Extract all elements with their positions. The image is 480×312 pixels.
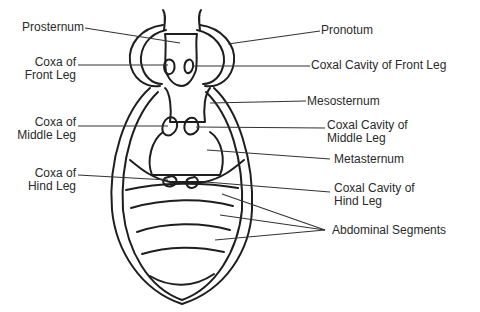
label-coxa-hind-leg: Coxa of Hind Leg bbox=[0, 167, 76, 193]
label-prosternum: Prosternum bbox=[0, 21, 84, 34]
label-abdominal-segments: Abdominal Segments bbox=[332, 224, 446, 237]
body-outline bbox=[111, 88, 252, 304]
label-line: Metasternum bbox=[334, 152, 404, 166]
leader-lines bbox=[78, 28, 330, 240]
label-line: Abdominal Segments bbox=[332, 223, 446, 237]
label-line: Hind Leg bbox=[0, 180, 76, 193]
label-line: Mesosternum bbox=[307, 94, 380, 108]
label-line: Prosternum bbox=[22, 20, 84, 34]
label-metasternum: Metasternum bbox=[334, 153, 404, 166]
label-line: Middle Leg bbox=[0, 129, 76, 142]
label-coxal-cavity-front-leg: Coxal Cavity of Front Leg bbox=[311, 59, 446, 72]
label-line: Front Leg bbox=[0, 69, 76, 82]
label-coxa-middle-leg: Coxa of Middle Leg bbox=[0, 116, 76, 142]
label-line: Coxal Cavity of Front Leg bbox=[311, 58, 446, 72]
insect-body-drawing bbox=[0, 0, 480, 312]
label-coxal-cavity-hind-leg: Coxal Cavity of Hind Leg bbox=[334, 182, 415, 208]
label-line: Hind Leg bbox=[334, 195, 415, 208]
label-coxa-front-leg: Coxa of Front Leg bbox=[0, 56, 76, 82]
label-mesosternum: Mesosternum bbox=[307, 95, 380, 108]
label-line: Pronotum bbox=[321, 23, 373, 37]
label-line: Middle Leg bbox=[327, 132, 408, 145]
label-coxal-cavity-middle-leg: Coxal Cavity of Middle Leg bbox=[327, 119, 408, 145]
label-pronotum: Pronotum bbox=[321, 24, 373, 37]
metasternum-shape bbox=[150, 132, 223, 175]
